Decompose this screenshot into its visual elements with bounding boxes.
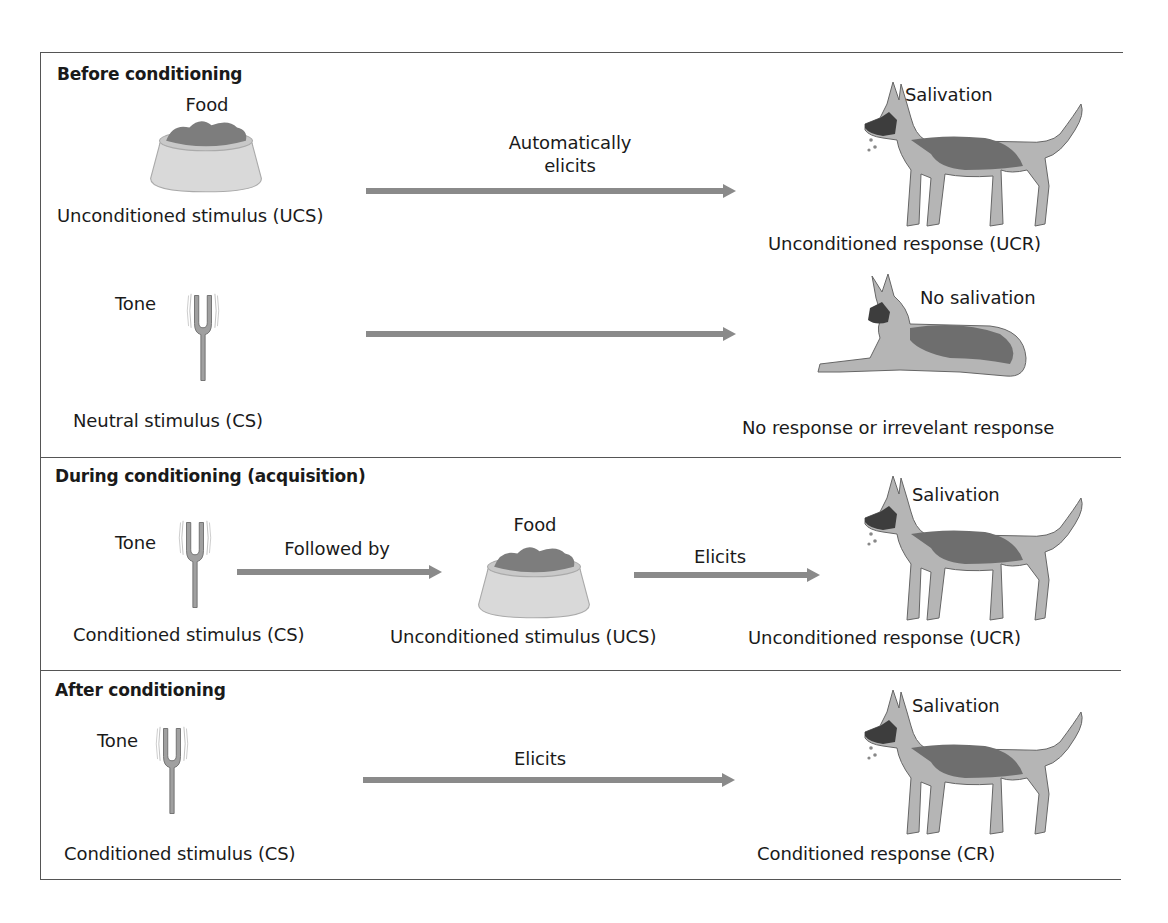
arrow-label: Followed by — [262, 538, 412, 559]
section-heading: After conditioning — [55, 680, 226, 700]
arrow-followed-by — [237, 569, 430, 575]
response-label: Conditioned response (CR) — [757, 843, 995, 864]
arrow-label: Elicits — [460, 748, 620, 769]
response-label: No response or irrevelant response — [742, 417, 1054, 438]
arrow-label: Automatically — [470, 132, 670, 153]
section-divider — [40, 457, 1121, 458]
stimulus-label: Conditioned stimulus (CS) — [73, 624, 305, 645]
response-top-label: Salivation — [912, 695, 1000, 716]
stimulus-label: Neutral stimulus (CS) — [73, 410, 263, 431]
arrow-automatically-elicits — [366, 188, 724, 194]
middle-top-label: Food — [480, 514, 590, 535]
tuning-fork-icon — [178, 510, 212, 620]
response-top-label: Salivation — [905, 84, 993, 105]
response-top-label: Salivation — [912, 484, 1000, 505]
frame-left-border — [40, 670, 41, 879]
tuning-fork-icon — [155, 715, 189, 827]
tuning-fork-icon — [186, 282, 220, 394]
section-divider — [40, 670, 1121, 671]
frame-bottom-border — [40, 879, 1121, 880]
stimulus-top-label: Tone — [115, 532, 156, 553]
arrow-no-response — [366, 331, 724, 337]
arrow-label: Elicits — [660, 546, 780, 567]
food-bowl-icon — [130, 112, 282, 194]
response-label: Unconditioned response (UCR) — [768, 233, 1041, 254]
middle-label: Unconditioned stimulus (UCS) — [390, 626, 656, 647]
arrow-elicits — [634, 572, 808, 578]
lying-dog-icon — [810, 268, 1030, 380]
response-top-label: No salivation — [920, 287, 1035, 308]
stimulus-label: Conditioned stimulus (CS) — [64, 843, 296, 864]
section-heading: During conditioning (acquisition) — [55, 466, 366, 486]
arrow-elicits — [363, 777, 723, 783]
frame-top-border — [40, 52, 1123, 53]
stimulus-top-label: Tone — [115, 293, 156, 314]
section-heading: Before conditioning — [57, 64, 242, 84]
stimulus-top-label: Tone — [97, 730, 138, 751]
arrow-label: elicits — [470, 155, 670, 176]
response-label: Unconditioned response (UCR) — [748, 627, 1021, 648]
food-bowl-icon — [458, 538, 610, 620]
stimulus-label: Unconditioned stimulus (UCS) — [57, 205, 323, 226]
frame-left-border — [40, 52, 41, 670]
